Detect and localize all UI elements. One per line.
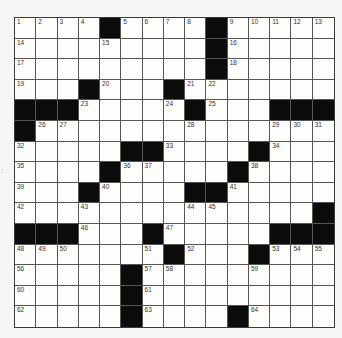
grid-cell[interactable] (185, 224, 206, 245)
grid-cell[interactable] (58, 39, 79, 60)
grid-cell[interactable]: 5 (121, 18, 142, 39)
grid-cell[interactable]: 45 (206, 203, 227, 224)
grid-cell[interactable]: 41 (228, 183, 249, 204)
grid-cell[interactable] (79, 162, 100, 183)
grid-cell[interactable] (291, 203, 312, 224)
grid-cell[interactable]: 50 (58, 245, 79, 266)
grid-cell[interactable]: 59 (249, 265, 270, 286)
grid-cell[interactable] (228, 224, 249, 245)
grid-cell[interactable] (79, 142, 100, 163)
grid-cell[interactable] (228, 142, 249, 163)
grid-cell[interactable] (58, 59, 79, 80)
grid-cell[interactable]: 64 (249, 306, 270, 327)
grid-cell[interactable] (249, 203, 270, 224)
grid-cell[interactable]: 16 (228, 39, 249, 60)
grid-cell[interactable]: 6 (143, 18, 164, 39)
grid-cell[interactable]: 42 (15, 203, 36, 224)
grid-cell[interactable]: 36 (121, 162, 142, 183)
grid-cell[interactable] (249, 121, 270, 142)
grid-cell[interactable]: 55 (313, 245, 334, 266)
grid-cell[interactable]: 43 (79, 203, 100, 224)
grid-cell[interactable]: 23 (79, 100, 100, 121)
grid-cell[interactable]: 18 (228, 59, 249, 80)
grid-cell[interactable] (185, 265, 206, 286)
grid-cell[interactable] (36, 183, 57, 204)
grid-cell[interactable] (164, 286, 185, 307)
grid-cell[interactable] (58, 142, 79, 163)
grid-cell[interactable]: 24 (164, 100, 185, 121)
grid-cell[interactable]: 44 (185, 203, 206, 224)
grid-cell[interactable] (249, 80, 270, 101)
grid-cell[interactable] (36, 80, 57, 101)
grid-cell[interactable] (313, 142, 334, 163)
grid-cell[interactable] (164, 306, 185, 327)
grid-cell[interactable] (164, 183, 185, 204)
grid-cell[interactable] (206, 121, 227, 142)
grid-cell[interactable]: 34 (270, 142, 291, 163)
grid-cell[interactable]: 32 (15, 142, 36, 163)
grid-cell[interactable]: 38 (249, 162, 270, 183)
grid-cell[interactable] (121, 203, 142, 224)
grid-cell[interactable] (270, 203, 291, 224)
grid-cell[interactable] (270, 162, 291, 183)
grid-cell[interactable] (185, 306, 206, 327)
grid-cell[interactable] (36, 162, 57, 183)
grid-cell[interactable] (313, 162, 334, 183)
grid-cell[interactable] (164, 203, 185, 224)
grid-cell[interactable] (100, 265, 121, 286)
grid-cell[interactable] (100, 245, 121, 266)
grid-cell[interactable] (164, 39, 185, 60)
grid-cell[interactable]: 19 (15, 80, 36, 101)
grid-cell[interactable] (36, 142, 57, 163)
grid-cell[interactable] (313, 59, 334, 80)
grid-cell[interactable] (249, 100, 270, 121)
grid-cell[interactable] (164, 121, 185, 142)
grid-cell[interactable] (313, 183, 334, 204)
grid-cell[interactable] (270, 39, 291, 60)
grid-cell[interactable] (143, 121, 164, 142)
grid-cell[interactable] (121, 59, 142, 80)
grid-cell[interactable] (206, 306, 227, 327)
grid-cell[interactable] (185, 39, 206, 60)
grid-cell[interactable]: 40 (100, 183, 121, 204)
grid-cell[interactable] (291, 183, 312, 204)
grid-cell[interactable]: 7 (164, 18, 185, 39)
grid-cell[interactable] (228, 245, 249, 266)
grid-cell[interactable]: 39 (15, 183, 36, 204)
grid-cell[interactable]: 28 (185, 121, 206, 142)
grid-cell[interactable] (313, 39, 334, 60)
grid-cell[interactable]: 30 (291, 121, 312, 142)
grid-cell[interactable]: 17 (15, 59, 36, 80)
grid-cell[interactable] (143, 59, 164, 80)
grid-cell[interactable] (313, 80, 334, 101)
grid-cell[interactable] (206, 142, 227, 163)
grid-cell[interactable] (143, 80, 164, 101)
grid-cell[interactable] (228, 286, 249, 307)
grid-cell[interactable] (206, 286, 227, 307)
grid-cell[interactable]: 49 (36, 245, 57, 266)
grid-cell[interactable] (270, 306, 291, 327)
grid-cell[interactable] (228, 121, 249, 142)
grid-cell[interactable] (228, 80, 249, 101)
grid-cell[interactable] (206, 265, 227, 286)
grid-cell[interactable] (164, 59, 185, 80)
grid-cell[interactable] (58, 80, 79, 101)
grid-cell[interactable] (100, 286, 121, 307)
grid-cell[interactable]: 48 (15, 245, 36, 266)
grid-cell[interactable]: 54 (291, 245, 312, 266)
grid-cell[interactable] (58, 286, 79, 307)
grid-cell[interactable]: 63 (143, 306, 164, 327)
grid-cell[interactable] (121, 100, 142, 121)
grid-cell[interactable] (79, 121, 100, 142)
grid-cell[interactable] (291, 286, 312, 307)
grid-cell[interactable] (36, 265, 57, 286)
grid-cell[interactable] (79, 265, 100, 286)
grid-cell[interactable]: 57 (143, 265, 164, 286)
grid-cell[interactable] (206, 162, 227, 183)
grid-cell[interactable] (291, 142, 312, 163)
grid-cell[interactable]: 12 (291, 18, 312, 39)
grid-cell[interactable] (291, 162, 312, 183)
grid-cell[interactable] (79, 59, 100, 80)
grid-cell[interactable] (58, 162, 79, 183)
grid-cell[interactable] (58, 203, 79, 224)
